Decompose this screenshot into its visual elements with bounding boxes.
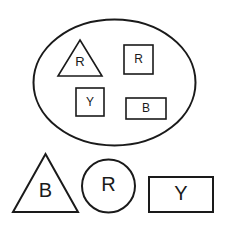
outside-triangle-b-label: B xyxy=(39,179,52,201)
shapes-outside-group: B R Y xyxy=(13,154,213,213)
shapes-diagram: R R Y B B R Y xyxy=(0,0,225,232)
figure-canvas: R R Y B B R Y xyxy=(0,0,225,232)
inside-square-y-label: Y xyxy=(86,95,94,109)
inside-rectangle-b-label: B xyxy=(142,101,150,115)
outside-rectangle-y-label: Y xyxy=(174,182,187,204)
container-ellipse xyxy=(34,20,196,146)
inside-square-r-label: R xyxy=(134,52,143,66)
inside-triangle-r-label: R xyxy=(75,54,84,69)
shapes-inside-group: R R Y B xyxy=(58,40,166,119)
outside-circle-r-label: R xyxy=(101,173,115,195)
